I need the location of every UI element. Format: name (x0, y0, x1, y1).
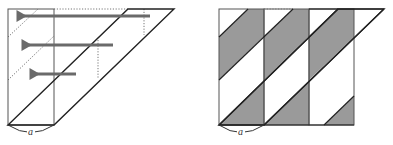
left-panel: a (8, 9, 174, 137)
right-panel: a (219, 9, 384, 137)
diagram-canvas: a (0, 0, 393, 145)
shaded-regions (219, 9, 354, 125)
parallelogram (8, 9, 174, 125)
base-label: a (238, 126, 243, 137)
base-rectangle (8, 9, 54, 125)
shift-arrows (24, 16, 150, 74)
base-label: a (28, 126, 33, 137)
